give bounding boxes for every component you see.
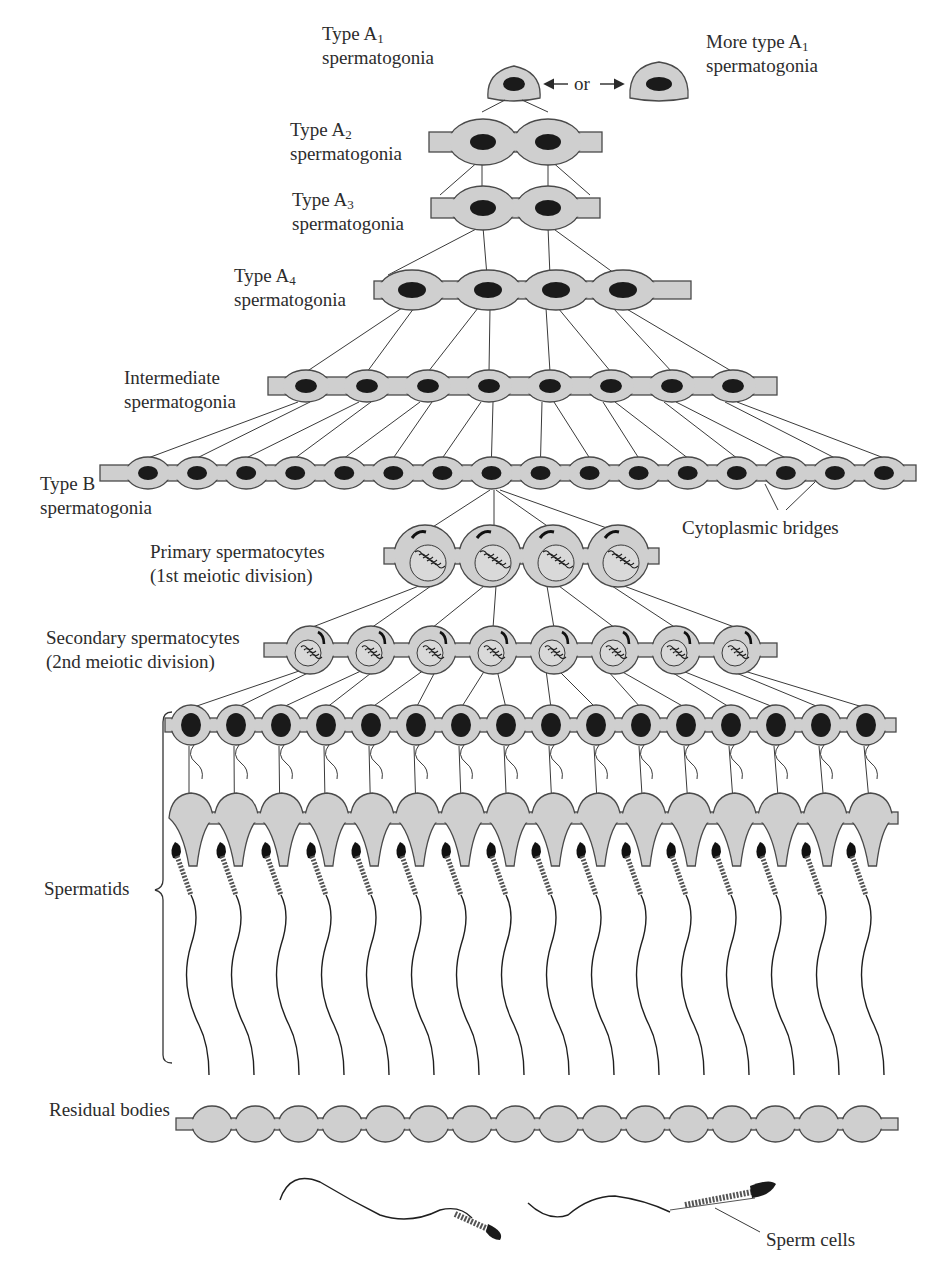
primary-spermatocytes-row — [384, 525, 659, 587]
label-type-a3: Type A3 spermatogonia — [292, 188, 404, 236]
label-residual-bodies: Residual bodies — [49, 1098, 170, 1122]
label-spermatids: Spermatids — [44, 877, 130, 901]
label-intermediate: Intermediate spermatogonia — [124, 366, 236, 414]
type-a2-row — [429, 119, 602, 165]
label-secondary-spermatocytes: Secondary spermatocytes (2nd meiotic div… — [46, 626, 240, 674]
secondary-spermatocytes-row — [264, 626, 777, 674]
label-type-a1: Type A1 spermatogonia — [322, 22, 434, 70]
round-spermatids-row — [165, 705, 896, 779]
sperm-cell-1 — [280, 1179, 501, 1240]
label-or: or — [574, 72, 590, 96]
type-a1-cell — [488, 66, 540, 101]
label-primary-spermatocytes: Primary spermatocytes (1st meiotic divis… — [150, 540, 325, 588]
label-more-type-a1: More type A1 spermatogonia — [706, 30, 818, 78]
spermatids-bracket — [155, 712, 172, 1063]
residual-bodies-row — [176, 1106, 898, 1142]
label-type-a2: Type A2 spermatogonia — [290, 118, 402, 166]
sperm-cell-2 — [528, 1181, 776, 1232]
type-a4-row — [374, 270, 691, 310]
label-cytoplasmic-bridges: Cytoplasmic bridges — [682, 516, 839, 540]
label-sperm-cells: Sperm cells — [766, 1228, 855, 1252]
label-type-b: Type B spermatogonia — [40, 472, 152, 520]
type-a3-row — [431, 186, 600, 230]
intermediate-row — [268, 370, 777, 402]
label-type-a4: Type A4 spermatogonia — [234, 264, 346, 312]
type-b-row — [100, 457, 916, 489]
more-type-a1-cell — [630, 62, 688, 101]
spermatid-tails — [171, 842, 884, 1075]
